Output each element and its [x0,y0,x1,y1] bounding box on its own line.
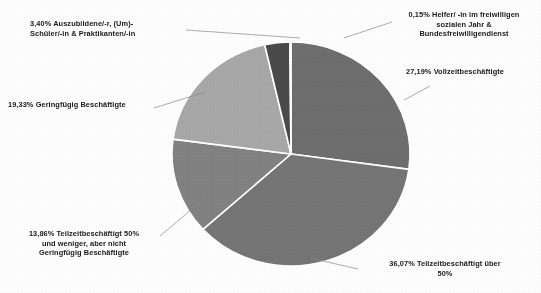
pie-slices-group [172,42,410,266]
slice-label-helfer-fsj-bfd: 0,15% Helfer/ -in im freiwilligen sozial… [390,10,538,39]
slice-label-vollzeit: 27,19% Vollzeitbeschäftigte [406,67,538,77]
slice-label-geringfuegig: 19,33% Geringfügig Beschäftigte [8,100,156,110]
slice-label-teilzeit-ueber-50: 36,07% Teilzeitbeschäftigt über 50% [356,259,534,278]
pie-slice-helfer-fsj-bfd[interactable] [290,42,291,154]
leader-line-vollzeit [404,86,430,100]
pie-chart-page: 0,15% Helfer/ -in im freiwilligen sozial… [0,0,541,293]
leader-line-auszubildende [186,30,300,38]
slice-label-auszubildende: 3,40% Auszubildene/-r, (Um)- Schüler/-in… [30,19,182,38]
pie-slice-vollzeit[interactable] [291,42,410,169]
leader-line-helfer-fsj-bfd [344,22,392,38]
slice-label-teilzeit-50-und-weniger: 13,86% Teilzeitbeschäftigt 50% und wenig… [4,229,164,258]
